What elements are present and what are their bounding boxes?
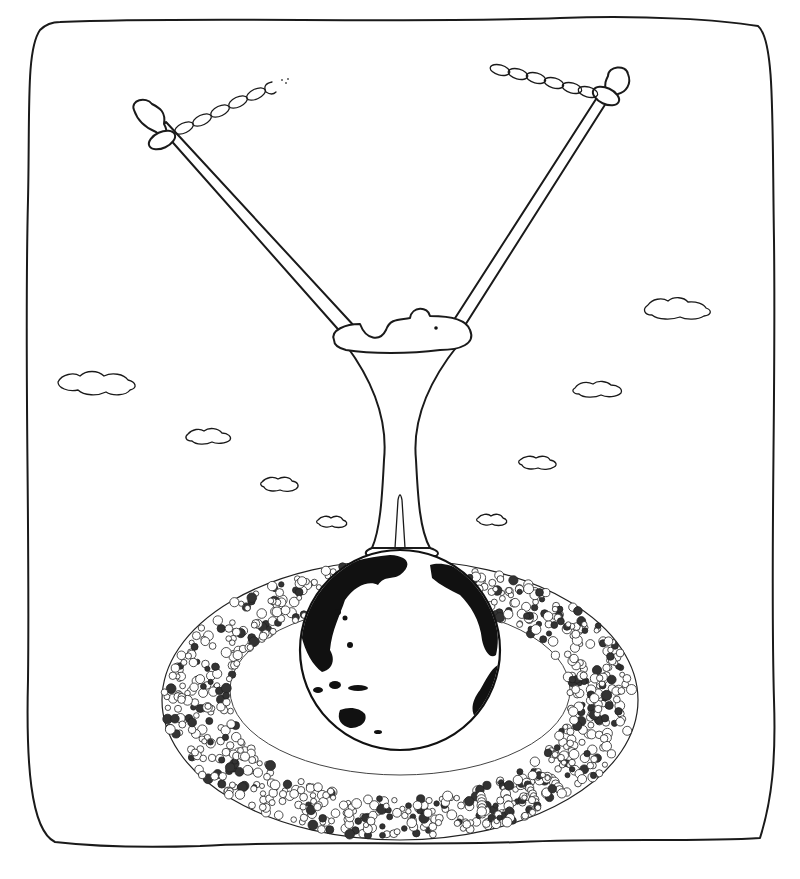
cloud-icon	[58, 372, 135, 395]
cloud-icon	[317, 516, 347, 527]
cloud-icon	[573, 381, 622, 397]
cartoon-illustration	[0, 0, 800, 879]
cloud-icon	[261, 477, 298, 491]
left-arm-with-chain	[133, 78, 356, 336]
cloud-icon	[477, 514, 507, 525]
pedestal	[346, 345, 458, 556]
cloud-icon	[519, 456, 556, 469]
cloud-icon	[186, 429, 231, 445]
pedestal-top-disc	[333, 309, 471, 353]
right-arm-with-chain	[450, 63, 629, 330]
earth-globe	[300, 550, 500, 750]
cloud-icon	[645, 298, 711, 319]
